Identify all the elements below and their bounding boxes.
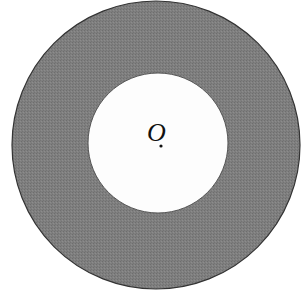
annulus-diagram: O [0,0,306,294]
center-label: O [147,118,166,147]
